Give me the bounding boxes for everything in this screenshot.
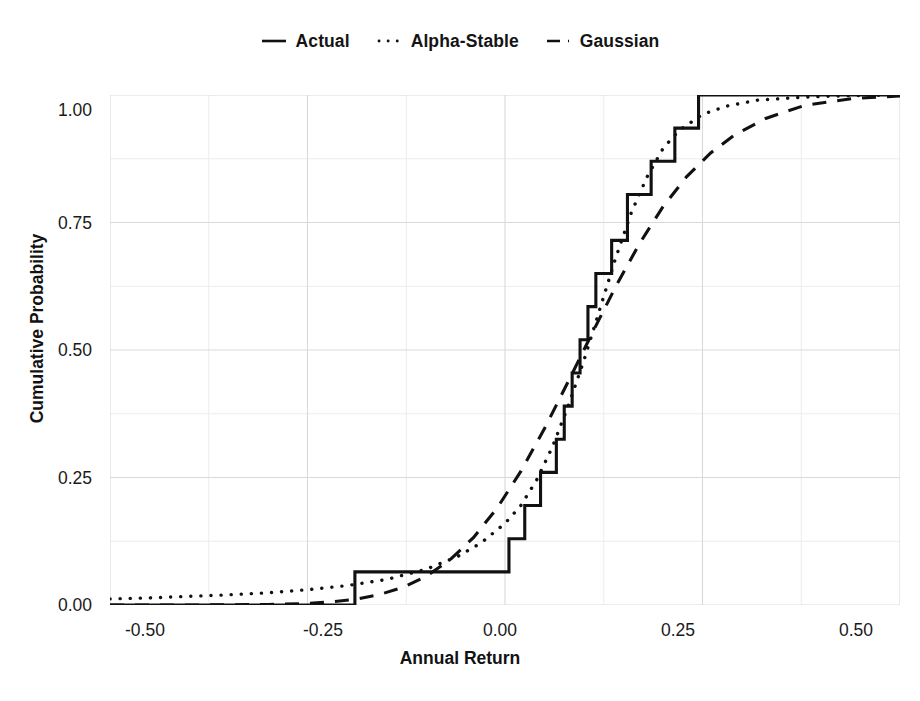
legend-label-alpha-stable: Alpha-Stable [411,31,519,52]
dashed-line-key [545,33,571,49]
plot-area [110,95,900,605]
plot-panel [110,95,900,605]
chart-legend: Actual Alpha-Stable Gaussian [0,26,920,56]
x-tick-0: -0.50 [95,620,195,641]
y-tick-0: 0.00 [22,595,92,616]
grid-major [110,95,900,605]
dotted-line-key [376,33,402,49]
legend-entry-actual: Actual [261,31,350,52]
solid-line-key [261,33,287,49]
legend-label-gaussian: Gaussian [580,31,660,52]
chart-figure: Actual Alpha-Stable Gaussian [0,0,920,701]
legend-entry-alpha-stable: Alpha-Stable [376,31,519,52]
x-axis-label: Annual Return [0,648,920,669]
x-tick-3: 0.25 [628,620,728,641]
y-axis-label: Cumulative Probability [27,164,48,494]
y-tick-4: 1.00 [22,100,92,121]
x-tick-1: -0.25 [273,620,373,641]
legend-label-actual: Actual [296,31,350,52]
legend-entry-gaussian: Gaussian [545,31,660,52]
x-tick-2: 0.00 [450,620,550,641]
x-tick-4: 0.50 [806,620,906,641]
